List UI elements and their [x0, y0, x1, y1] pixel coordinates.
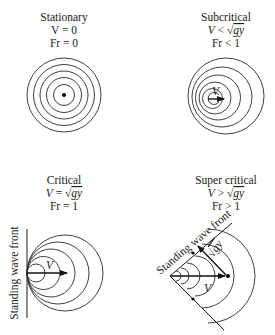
subcritical-title: Subcritical	[201, 11, 251, 23]
stationary-velocity-label: V = 0	[51, 24, 77, 36]
subcritical-velocity-label: V < √gy	[208, 24, 245, 37]
standing-wave-front-label: Standing wave front	[8, 226, 21, 320]
critical-froude-label: Fr = 1	[50, 200, 78, 212]
standing-wave-front-label: Standing wave front	[154, 207, 234, 277]
velocity-arrow-label: V	[46, 259, 55, 271]
panel-critical: Critical V = √gy Fr = 1 Standing wave fr…	[8, 174, 103, 320]
tangent-point-upper	[191, 251, 194, 254]
supercritical-velocity-label: V > √gy	[208, 187, 245, 200]
panel-subcritical: Subcritical V < √gy Fr < 1 V	[188, 11, 264, 134]
stationary-title: Stationary	[40, 11, 88, 24]
subcritical-wave-circles	[188, 58, 264, 134]
critical-title: Critical	[47, 174, 82, 186]
panel-stationary: Stationary V = 0 Fr = 0	[27, 11, 101, 132]
stationary-froude-label: Fr = 0	[50, 37, 78, 49]
critical-velocity-label: V = √gy	[46, 187, 83, 200]
disturbance-source-dot	[226, 274, 230, 278]
tangent-point-lower	[191, 297, 194, 300]
velocity-arrow-label: V	[204, 282, 213, 294]
panel-supercritical: Super critical V > √gy Fr > 1 Standing w…	[154, 174, 257, 330]
froude-wave-diagram: Stationary V = 0 Fr = 0 Subcritical V < …	[0, 0, 275, 335]
supercritical-title: Super critical	[195, 174, 257, 187]
subcritical-froude-label: Fr < 1	[212, 37, 240, 49]
disturbance-source-dot	[62, 93, 66, 97]
